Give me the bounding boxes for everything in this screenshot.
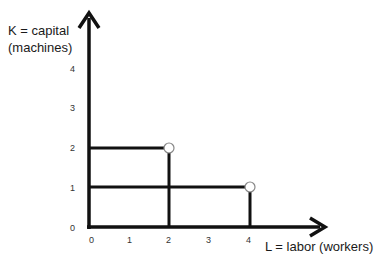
x-axis-label: L = labor (workers)	[265, 239, 373, 254]
x-tick-1: 1	[127, 235, 132, 245]
y-tick-2: 2	[70, 143, 75, 153]
y-axis-label-line1: K = capital	[8, 23, 69, 38]
point-L4-K1	[245, 182, 255, 192]
chart: 0 1 2 3 4 0 1 2 3 4 K = capital (machine…	[0, 0, 383, 266]
point-L2-K2	[164, 143, 174, 153]
y-axis-label-line2: (machines)	[8, 40, 72, 55]
x-tick-0: 0	[89, 235, 94, 245]
y-tick-4: 4	[70, 64, 75, 74]
y-tick-3: 3	[70, 103, 75, 113]
x-tick-2: 2	[166, 235, 171, 245]
x-tick-4: 4	[246, 235, 251, 245]
y-tick-0: 0	[70, 223, 75, 233]
y-tick-1: 1	[70, 183, 75, 193]
x-tick-3: 3	[206, 235, 211, 245]
